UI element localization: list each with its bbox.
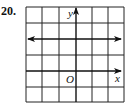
coordinate-graph: y x O: [0, 0, 129, 109]
x-axis-label: x: [114, 72, 120, 84]
origin-label: O: [66, 73, 74, 85]
y-axis-label: y: [67, 7, 73, 19]
grid: [26, 7, 124, 102]
